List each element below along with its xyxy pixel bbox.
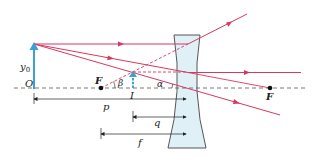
label-angle-beta: β: [117, 78, 123, 88]
ray-arrow-icon: [244, 70, 250, 75]
ray-parallel-refracted: [188, 14, 247, 44]
angle-alpha-arc: [172, 84, 173, 88]
label-focal-left: F: [94, 75, 103, 86]
focal-point-right: [268, 86, 273, 91]
label-f: f: [137, 137, 144, 148]
object-arrowhead-icon: [30, 42, 39, 50]
label-origin: O: [25, 78, 33, 89]
label-focal-right: F: [265, 91, 274, 102]
virtual-ray-from-focus: [101, 44, 188, 88]
focal-point-left: [99, 86, 104, 91]
ray-arrow-icon: [233, 99, 240, 104]
angle-beta-arc: [114, 82, 116, 89]
diverging-lens-diagram: y0 O F F I β α p q f: [0, 0, 319, 162]
ray-arrow-icon: [118, 42, 124, 47]
label-q: q: [154, 117, 160, 128]
label-angle-alpha: α: [157, 79, 163, 89]
label-object-height: y0: [19, 61, 30, 74]
ray-arrow-icon: [107, 56, 114, 61]
label-p: p: [103, 101, 110, 112]
ray-to-right-focus: [188, 73, 270, 89]
